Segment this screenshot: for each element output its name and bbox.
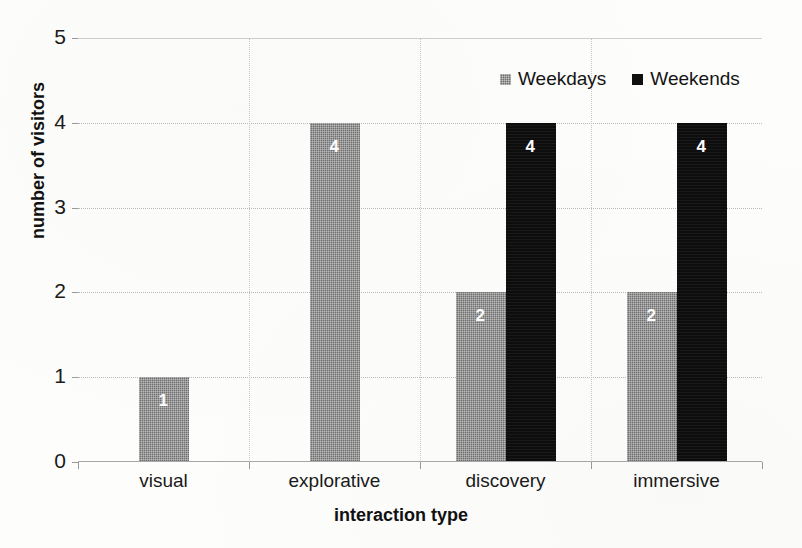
chart-legend: WeekdaysWeekends [500, 68, 740, 90]
bar-value-label: 4 [506, 137, 556, 157]
x-axis-tick-labels: visualexplorativediscoveryimmersive [78, 470, 762, 500]
bar-visual-weekdays[interactable]: 1 [139, 377, 189, 462]
bar-immersive-weekdays[interactable]: 2 [627, 292, 677, 462]
y-tick-label-4: 4 [40, 110, 66, 134]
bar-value-label: 4 [677, 137, 727, 157]
x-tick-label-immersive: immersive [591, 470, 762, 492]
bar-value-label: 2 [627, 306, 677, 326]
y-tick-label-3: 3 [40, 195, 66, 219]
bar-explorative-weekdays[interactable]: 4 [310, 123, 360, 462]
black-square-icon [632, 74, 643, 85]
legend-item-weekends[interactable]: Weekends [632, 68, 739, 90]
y-tick-label-0: 0 [40, 449, 66, 473]
y-tick-label-5: 5 [40, 25, 66, 49]
x-axis-title: interaction type [0, 505, 802, 526]
bar-value-label: 4 [310, 137, 360, 157]
x-tick-mark-2 [420, 462, 421, 469]
x-tick-mark-4 [762, 462, 763, 469]
plot-area: 142424 [78, 38, 762, 462]
y-tick-label-1: 1 [40, 364, 66, 388]
category-separator-3 [591, 38, 592, 462]
x-tick-label-discovery: discovery [420, 470, 591, 492]
legend-label: Weekdays [518, 68, 606, 90]
bar-discovery-weekends[interactable]: 4 [506, 123, 556, 462]
bar-value-label: 1 [139, 391, 189, 411]
bar-immersive-weekends[interactable]: 4 [677, 123, 727, 462]
x-tick-label-visual: visual [78, 470, 249, 492]
x-tick-mark-0 [78, 462, 79, 469]
bar-value-label: 2 [456, 306, 506, 326]
x-tick-label-explorative: explorative [249, 470, 420, 492]
category-separator-2 [420, 38, 421, 462]
y-tick-label-2: 2 [40, 279, 66, 303]
bar-chart-figure: number of visitors 012345 142424 visuale… [0, 0, 802, 548]
y-axis-tick-labels: 012345 [36, 38, 66, 462]
x-tick-mark-1 [249, 462, 250, 469]
category-separator-1 [249, 38, 250, 462]
x-tick-mark-3 [591, 462, 592, 469]
gray-square-icon [500, 74, 511, 85]
legend-label: Weekends [650, 68, 739, 90]
bar-discovery-weekdays[interactable]: 2 [456, 292, 506, 462]
legend-item-weekdays[interactable]: Weekdays [500, 68, 606, 90]
